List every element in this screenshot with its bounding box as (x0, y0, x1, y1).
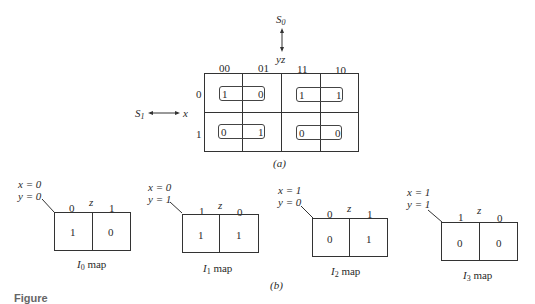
cell: 1 (70, 226, 76, 238)
y-value-label: y = 0 (18, 190, 41, 202)
figure-label: Figure (14, 292, 48, 304)
sub-kmap-grid (182, 214, 259, 253)
cell: 1 (198, 229, 204, 241)
z-label: z (347, 202, 351, 214)
cell: 0 (457, 237, 463, 249)
cell-r0-c3: 1 (336, 89, 342, 101)
cell: 1 (366, 233, 372, 245)
sub-kmap-grid (312, 218, 388, 257)
row-header-0: 0 (196, 88, 202, 100)
cell-r0-c0: 1 (222, 88, 228, 100)
x-value-label: x = 1 (278, 184, 301, 196)
cell: 0 (327, 233, 333, 245)
grid-divider (349, 218, 350, 257)
y-value-label: y = 1 (407, 198, 430, 210)
x-value-label: x = 0 (148, 181, 171, 193)
cell: 0 (496, 237, 502, 249)
cell-r1-c0: 0 (221, 126, 227, 138)
cell-r0-c2: 1 (299, 89, 305, 101)
grid-divider (479, 222, 480, 261)
z-label: z (477, 204, 481, 216)
row-header-1: 1 (196, 128, 202, 140)
x-axis-label: x (183, 107, 188, 119)
s1-label: S1 (135, 107, 145, 119)
map-caption: I2 map (331, 265, 360, 277)
yz-axis-label: yz (276, 53, 285, 65)
x-value-label: x = 1 (407, 186, 430, 198)
cell-r0-c1: 0 (258, 88, 264, 100)
cell-r1-c2: 0 (299, 127, 305, 139)
grid-divider (219, 214, 220, 253)
cell-r1-c1: 1 (258, 126, 264, 138)
y-value-label: y = 1 (148, 193, 171, 205)
cell: 0 (108, 226, 114, 238)
map-caption: I0 map (77, 258, 106, 270)
x-value-label: x = 0 (18, 178, 41, 190)
s0-label: S0 (276, 13, 286, 25)
grid-divider (204, 112, 359, 113)
caption-b: (b) (270, 279, 283, 291)
grid-divider (92, 212, 93, 251)
map-caption: I3 map (463, 269, 492, 281)
y-value-label: y = 0 (278, 196, 301, 208)
caption-a: (a) (273, 157, 286, 169)
cell: 1 (236, 229, 242, 241)
map-caption: I1 map (203, 262, 232, 274)
cell-r1-c3: 0 (335, 127, 341, 139)
z-label: z (218, 199, 222, 211)
z-label: z (89, 196, 93, 208)
